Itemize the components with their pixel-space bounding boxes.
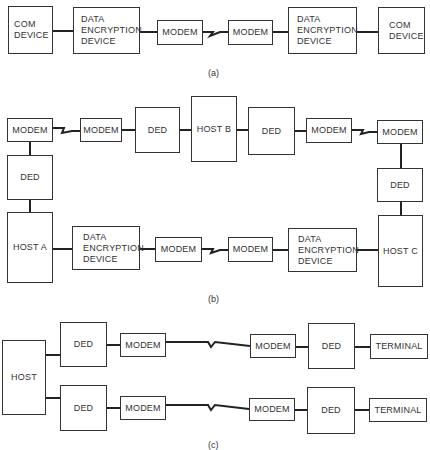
- box-label: MODEM: [255, 341, 291, 352]
- host-a-box: HOST A: [7, 212, 53, 283]
- modem-box: MODEM: [80, 118, 122, 142]
- box-label: DED: [322, 341, 342, 352]
- modem-box: MODEM: [120, 396, 166, 420]
- host-b-box: HOST B: [191, 96, 237, 162]
- box-label: MODEM: [233, 27, 269, 38]
- data-encryption-device-box: DATA ENCRYPTION DEVICE: [72, 226, 140, 270]
- box-label: DED: [20, 172, 40, 183]
- box-label: MODEM: [311, 125, 347, 136]
- modem-box: MODEM: [249, 398, 295, 421]
- caption-b: (b): [208, 294, 219, 304]
- box-label: HOST B: [197, 124, 232, 135]
- caption-c: (c): [208, 440, 219, 450]
- data-encryption-device-box: DATA ENCRYPTION DEVICE: [288, 228, 357, 272]
- modem-box: MODEM: [120, 333, 166, 357]
- ded-box: DED: [307, 387, 355, 434]
- modem-box: MODEM: [155, 237, 202, 262]
- ded-box: DED: [377, 168, 423, 202]
- modem-box: MODEM: [157, 20, 203, 45]
- terminal-box: TERMINAL: [370, 334, 428, 359]
- modem-box: MODEM: [377, 120, 423, 144]
- box-label: DATA ENCRYPTION DEVICE: [83, 232, 144, 265]
- box-label: HOST A: [13, 242, 47, 253]
- box-label: DATA ENCRYPTION DEVICE: [81, 14, 142, 47]
- com-device-box: COM DEVICE: [8, 6, 53, 54]
- box-label: COM DEVICE: [14, 19, 49, 41]
- box-label: TERMINAL: [375, 341, 422, 352]
- ded-box: DED: [248, 107, 295, 155]
- data-encryption-device-box: DATA ENCRYPTION DEVICE: [73, 7, 140, 54]
- box-label: DED: [148, 125, 168, 136]
- modem-box: MODEM: [228, 20, 273, 45]
- data-encryption-device-box: DATA ENCRYPTION DEVICE: [288, 7, 357, 54]
- terminal-box: TERMINAL: [369, 398, 427, 422]
- box-label: MODEM: [161, 244, 197, 255]
- box-label: HOST C: [383, 246, 418, 257]
- modem-box: MODEM: [7, 118, 53, 142]
- box-label: DED: [262, 126, 282, 137]
- box-label: DED: [390, 180, 410, 191]
- box-label: COM DEVICE: [389, 20, 424, 42]
- box-label: MODEM: [125, 340, 161, 351]
- box-label: DATA ENCRYPTION DEVICE: [297, 14, 358, 47]
- caption-a: (a): [208, 68, 219, 78]
- box-label: DED: [74, 403, 94, 414]
- ded-box: DED: [308, 323, 355, 369]
- box-label: MODEM: [12, 125, 48, 136]
- modem-box: MODEM: [250, 334, 296, 358]
- host-box: HOST: [2, 340, 46, 415]
- box-label: MODEM: [125, 403, 161, 414]
- ded-box: DED: [135, 107, 180, 153]
- ded-box: DED: [60, 385, 107, 431]
- ded-box: DED: [60, 322, 107, 367]
- host-c-box: HOST C: [378, 215, 423, 287]
- box-label: MODEM: [162, 27, 198, 38]
- box-label: DED: [74, 339, 94, 350]
- box-label: MODEM: [83, 125, 119, 136]
- box-label: HOST: [11, 372, 37, 383]
- box-label: TERMINAL: [374, 405, 421, 416]
- com-device-box: COM DEVICE: [378, 7, 425, 54]
- modem-box: MODEM: [228, 237, 273, 262]
- modem-box: MODEM: [306, 118, 352, 143]
- box-label: MODEM: [233, 244, 269, 255]
- ded-box: DED: [7, 155, 53, 200]
- box-label: DED: [321, 405, 341, 416]
- box-label: MODEM: [382, 127, 418, 138]
- box-label: DATA ENCRYPTION DEVICE: [298, 234, 359, 267]
- box-label: MODEM: [254, 404, 290, 415]
